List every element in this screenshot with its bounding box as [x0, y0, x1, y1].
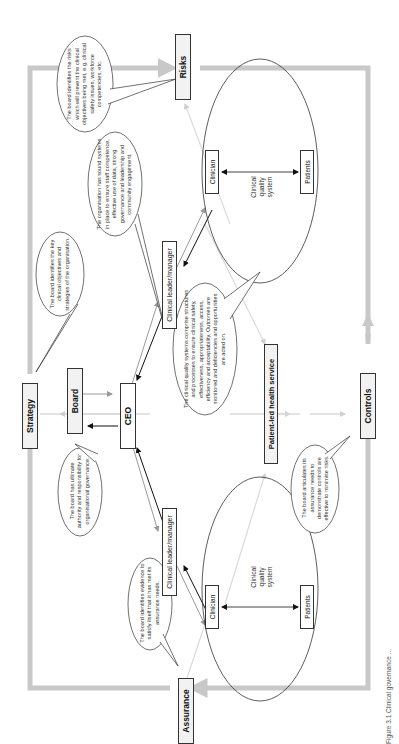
organisation-callout: The organisation has sound systems in pl… — [92, 137, 138, 231]
board-ceo-arrows — [82, 394, 118, 426]
controls-callout: The board articulates its assurance need… — [296, 448, 336, 528]
assurance-box: Assurance — [178, 678, 194, 744]
cqs-label-right: Clinical quality system — [250, 170, 274, 204]
ceo-box: CEO — [120, 383, 136, 449]
cqs-label-left: Clinical quality system — [250, 560, 274, 594]
risks-box: Risks — [175, 34, 191, 100]
board-box: Board — [67, 368, 83, 434]
strategy-box: Strategy — [22, 383, 38, 449]
patients-box-left: Patients — [300, 585, 314, 629]
governance-diagram: Strategy Board CEO Risks Controls Assura… — [0, 0, 399, 744]
clinician-box-left: Clinician — [205, 585, 219, 629]
strategy-callout: The board identifies the key clinical ob… — [40, 236, 80, 312]
clinician-box-right: Clinician — [205, 150, 219, 194]
ceo-leader-arrows — [132, 302, 166, 531]
assurance-callout: The board identifies evidence to satisfy… — [132, 562, 168, 644]
patients-box-right: Patients — [300, 150, 314, 194]
patient-led-service-box: Patient-led health service — [264, 344, 278, 464]
leader-clinician-arrows — [176, 208, 212, 625]
figure-caption: Figure 3.1 Clinical governance ... — [385, 649, 392, 744]
risks-callout: The board identifies the risks which wil… — [60, 42, 110, 126]
controls-box: Controls — [360, 373, 376, 439]
cqs-callout: The clinical quality systems comprise st… — [178, 289, 232, 409]
board-callout: The board has ultimate authority and res… — [62, 451, 98, 531]
clinical-leader-box-right: Clinical leader/manager — [162, 241, 177, 329]
